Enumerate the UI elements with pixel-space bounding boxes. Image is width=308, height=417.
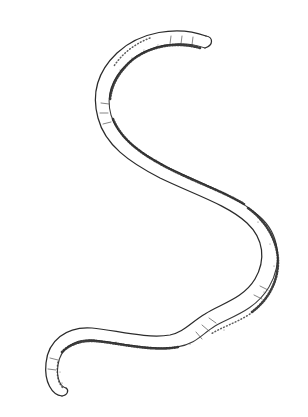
ink-speck: [192, 180, 193, 181]
figure-root: [0, 0, 308, 417]
worm-illustration: [0, 0, 308, 417]
ink-speck: [166, 348, 167, 349]
ink-speck: [61, 382, 62, 383]
ink-speck: [173, 170, 174, 171]
ink-speck: [131, 57, 132, 58]
ink-speck: [140, 150, 141, 151]
ink-speck: [116, 342, 117, 343]
ink-speck: [120, 70, 121, 71]
ink-speck: [112, 83, 113, 84]
ink-speck: [264, 292, 265, 293]
ink-speck: [93, 339, 94, 340]
ink-speck: [144, 50, 145, 51]
ink-speck: [189, 343, 190, 344]
ink-speck: [125, 137, 126, 138]
ink-speck: [211, 187, 212, 188]
ink-speck: [74, 345, 75, 346]
ink-speck: [224, 330, 225, 331]
ink-speck: [157, 44, 158, 45]
ink-speck: [60, 372, 61, 373]
ink-speck: [270, 244, 271, 245]
ink-speck: [139, 345, 140, 346]
ink-speck: [232, 198, 233, 199]
ink-speck: [155, 159, 156, 160]
ink-speck: [273, 265, 274, 266]
ink-speck: [257, 221, 258, 222]
